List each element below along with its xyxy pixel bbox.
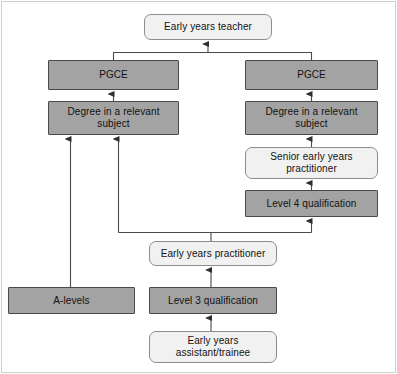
edge-pgce-right-to-teacher xyxy=(208,53,312,61)
node-pgce-right[interactable]: PGCE xyxy=(245,60,378,90)
node-pgce-left[interactable]: PGCE xyxy=(48,60,179,90)
node-level-3-qualification[interactable]: Level 3 qualification xyxy=(149,287,277,314)
connector-layer xyxy=(0,0,397,374)
node-label: Level 3 qualification xyxy=(153,295,273,307)
node-senior-early-years-practitioner[interactable]: Senior early years practitioner xyxy=(245,147,378,179)
node-early-years-teacher[interactable]: Early years teacher xyxy=(144,14,272,40)
node-label: Early years assistant/trainee xyxy=(153,335,273,359)
node-label: A-levels xyxy=(12,295,131,307)
node-early-years-practitioner[interactable]: Early years practitioner xyxy=(149,241,277,266)
edge-pgce-left-to-teacher xyxy=(114,53,209,61)
node-label: Senior early years practitioner xyxy=(249,151,374,175)
flowchart-canvas: Early years teacher PGCE PGCE Degree in … xyxy=(0,0,397,374)
node-label: Degree in a relevant subject xyxy=(249,106,374,130)
node-label: Early years teacher xyxy=(148,21,268,33)
node-label: PGCE xyxy=(249,69,374,81)
node-degree-left[interactable]: Degree in a relevant subject xyxy=(48,101,179,135)
node-degree-right[interactable]: Degree in a relevant subject xyxy=(245,101,378,135)
node-label: Level 4 qualification xyxy=(249,198,374,210)
node-early-years-assistant-trainee[interactable]: Early years assistant/trainee xyxy=(149,331,277,363)
node-label: Early years practitioner xyxy=(153,248,273,260)
node-a-levels[interactable]: A-levels xyxy=(8,287,135,314)
node-label: PGCE xyxy=(52,69,175,81)
node-label: Degree in a relevant subject xyxy=(52,106,175,130)
node-level-4-qualification[interactable]: Level 4 qualification xyxy=(245,190,378,217)
